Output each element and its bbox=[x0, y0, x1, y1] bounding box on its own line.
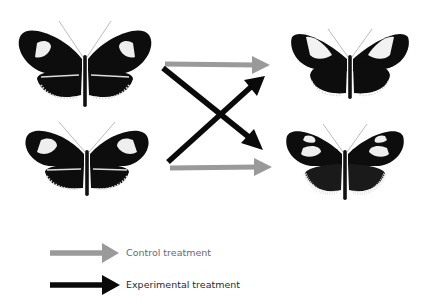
experimental-arrow-up bbox=[168, 76, 265, 162]
butterfly-outcome-2 bbox=[286, 124, 404, 200]
treatment-diagram bbox=[0, 0, 426, 307]
butterfly-outcome-1 bbox=[291, 29, 409, 99]
legend-control-arrow-icon bbox=[50, 243, 119, 263]
control-arrow-bottom bbox=[170, 158, 272, 176]
butterfly-parent-1 bbox=[19, 21, 152, 107]
legend-experimental-arrow-icon bbox=[50, 275, 120, 295]
legend-experimental-label: Experimental treatment bbox=[126, 279, 240, 290]
legend-control-label: Control treatment bbox=[126, 247, 211, 258]
control-arrow-top bbox=[165, 56, 270, 74]
butterfly-parent-2 bbox=[25, 122, 148, 196]
